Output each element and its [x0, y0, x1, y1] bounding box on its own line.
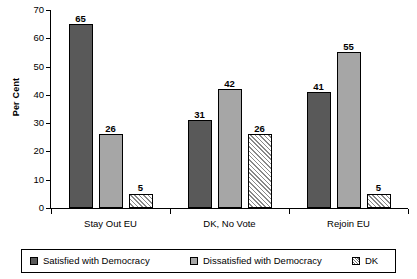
bar: 26	[99, 134, 123, 208]
bar-group: 65265	[51, 10, 170, 208]
x-axis-category-label: Rejoin EU	[289, 219, 408, 229]
y-axis-tick-label: 0	[39, 203, 44, 213]
y-axis-tick-label: 10	[33, 175, 44, 185]
y-axis-tick-mark	[46, 95, 51, 96]
y-axis-tick-mark	[46, 38, 51, 39]
x-axis-category-label: DK, No Vote	[170, 219, 289, 229]
swatch-hatched-icon	[352, 257, 360, 265]
x-axis-category-labels: Stay Out EUDK, No VoteRejoin EU	[51, 219, 408, 235]
bar-value-label: 31	[194, 110, 205, 120]
y-axis-tick-mark	[46, 67, 51, 68]
x-axis-tick-mark	[51, 209, 52, 214]
y-axis-tick-label: 60	[33, 34, 44, 44]
bar-chart: Per Cent 010203040506070 652653142264155…	[0, 0, 417, 279]
y-axis-tick-label: 70	[33, 5, 44, 15]
x-axis-tick-mark	[408, 209, 409, 214]
legend-item: DK	[352, 250, 378, 272]
legend-label: DK	[365, 256, 378, 266]
bar-value-label: 42	[224, 79, 235, 89]
bar-group: 314226	[170, 10, 289, 208]
x-axis-tick-mark	[170, 209, 171, 214]
legend-label: Dissatisfied with Democracy	[203, 256, 322, 266]
bar: 5	[129, 194, 153, 208]
y-axis-tick-label: 40	[33, 90, 44, 100]
bar-value-label: 41	[313, 82, 324, 92]
bar-value-label: 5	[376, 183, 381, 193]
legend-item: Satisfied with Democracy	[30, 250, 150, 272]
legend-label: Satisfied with Democracy	[43, 256, 150, 266]
x-axis-line	[50, 208, 408, 209]
bar-group: 41555	[289, 10, 408, 208]
legend-item: Dissatisfied with Democracy	[190, 250, 322, 272]
bar: 42	[218, 89, 242, 208]
y-axis-tick-mark	[46, 123, 51, 124]
x-axis-category-label: Stay Out EU	[51, 219, 170, 229]
bar-value-label: 5	[138, 183, 143, 193]
swatch-dark-gray-icon	[30, 257, 38, 265]
y-axis-tick-mark	[46, 180, 51, 181]
plot-area: Per Cent 010203040506070 652653142264155…	[0, 0, 417, 243]
swatch-light-gray-icon	[190, 257, 198, 265]
bar: 55	[337, 52, 361, 208]
y-axis-tick-label: 30	[33, 118, 44, 128]
y-axis-tick-label: 50	[33, 62, 44, 72]
bar-value-label: 26	[105, 124, 116, 134]
y-axis-tick-labels: 010203040506070	[18, 10, 44, 208]
bar-groups: 6526531422641555	[51, 10, 408, 208]
bar: 41	[307, 92, 331, 208]
bar-value-label: 26	[254, 124, 265, 134]
y-axis-tick-label: 20	[33, 147, 44, 157]
y-axis-tick-mark	[46, 151, 51, 152]
y-axis-tick-mark	[46, 10, 51, 11]
bar: 5	[367, 194, 391, 208]
bar: 26	[248, 134, 272, 208]
bar: 31	[188, 120, 212, 208]
bar-value-label: 65	[75, 14, 86, 24]
bar-value-label: 55	[343, 42, 354, 52]
bar: 65	[69, 24, 93, 208]
chart-legend: Satisfied with DemocracyDissatisfied wit…	[21, 249, 396, 273]
x-axis-tick-mark	[289, 209, 290, 214]
